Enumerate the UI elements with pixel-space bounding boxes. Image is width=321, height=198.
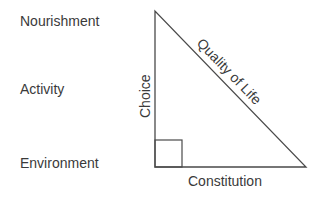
hypotenuse-label-quality-of-life: Quality of Life (194, 35, 265, 108)
quality-of-life-triangle: Choice Quality of Life Constitution (0, 0, 321, 198)
base-label-constitution: Constitution (188, 173, 262, 189)
right-angle-marker (155, 140, 182, 167)
triangle-shape (155, 11, 306, 167)
side-label-choice: Choice (137, 74, 153, 118)
